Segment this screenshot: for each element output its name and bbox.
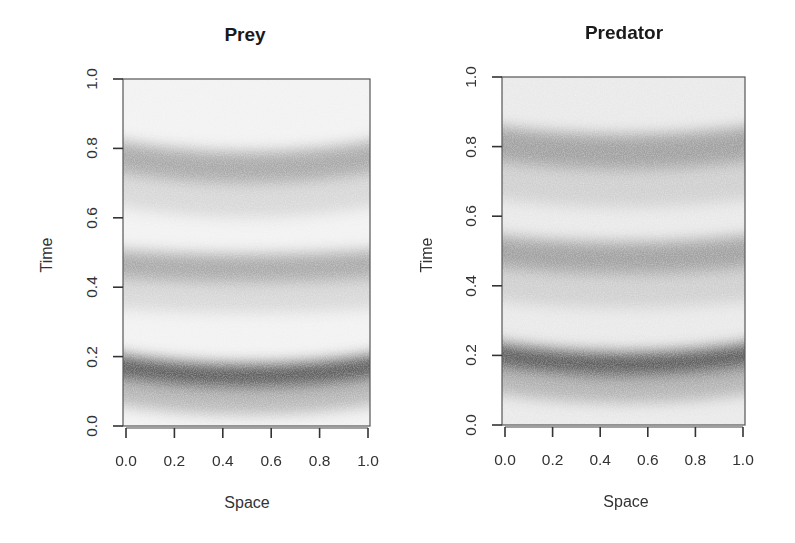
predator-panel: Predator 0.00.20.40.60.81.00.00.20.40.60… <box>0 0 795 543</box>
x-tick-label: 0.4 <box>589 451 611 469</box>
x-tick-label: 0.0 <box>494 451 516 469</box>
predator-x-axis-label: Space <box>603 493 648 511</box>
predator-heatmap <box>0 0 795 543</box>
x-tick-label: 1.0 <box>732 451 754 469</box>
predator-y-axis-label: Time <box>418 238 436 273</box>
x-tick-label: 0.2 <box>542 451 564 469</box>
x-tick-label: 0.8 <box>685 451 707 469</box>
y-tick-label: 0.6 <box>462 205 480 227</box>
y-tick-label: 0.2 <box>462 345 480 367</box>
y-tick-label: 0.0 <box>462 414 480 436</box>
x-tick-label: 0.6 <box>637 451 659 469</box>
y-tick-label: 0.4 <box>462 275 480 297</box>
heatmap-bands <box>482 77 765 425</box>
y-tick-label: 0.8 <box>462 136 480 158</box>
y-tick-label: 1.0 <box>462 66 480 88</box>
